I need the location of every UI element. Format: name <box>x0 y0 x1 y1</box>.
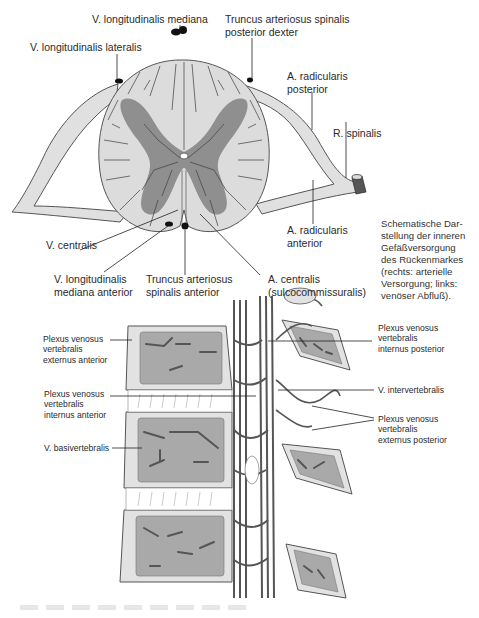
label-v-longitudinalis-mediana: V. longitudinalis mediana <box>92 13 208 26</box>
label-v-centralis: V. centralis <box>46 239 97 252</box>
vertebral-column <box>120 288 352 598</box>
label-r-spinalis: R. spinalis <box>333 127 381 140</box>
label-a-radicularis-posterior: A. radicularis posterior <box>287 70 348 95</box>
label-v-intervertebralis: V. intervertebralis <box>378 385 444 395</box>
label-a-radicularis-anterior: A. radicularis anterior <box>287 224 348 249</box>
label-plexus-externus-posterior: Plexus venosus vertebralis externus post… <box>378 414 447 445</box>
spinal-vascular-illustration <box>0 0 479 618</box>
label-truncus-spinalis-posterior-dexter: Truncus arteriosus spinalis posterior de… <box>225 13 350 38</box>
figure-caption: Schematische Dar- stellung der inneren G… <box>381 218 465 302</box>
illegible-footer-text <box>20 605 250 610</box>
label-a-centralis: A. centralis (sulcocommissuralis) <box>268 273 366 298</box>
spinal-cord <box>99 26 269 232</box>
label-v-basivertebralis: V. basivertebralis <box>44 443 109 453</box>
label-plexus-externus-anterior: Plexus venosus vertebralis externus ante… <box>43 334 108 365</box>
label-v-longitudinalis-lateralis: V. longitudinalis lateralis <box>30 41 142 54</box>
label-plexus-internus-posterior: Plexus venosus vertebralis internus post… <box>378 323 444 354</box>
label-v-longitudinalis-mediana-anterior: V. longitudinalis mediana anterior <box>54 273 133 298</box>
label-plexus-internus-anterior: Plexus venosus vertebralis internus ante… <box>44 389 106 420</box>
label-truncus-arteriosus-spinalis-anterior: Truncus arteriosus spinalis anterior <box>146 273 233 298</box>
